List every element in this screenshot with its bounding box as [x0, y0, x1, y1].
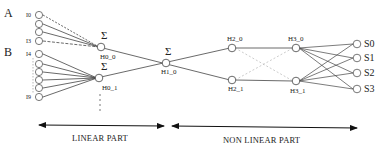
input-i9-label: I9 [26, 94, 31, 100]
sum-icon-h0-0: Σ [101, 30, 107, 41]
network-diagram [0, 0, 387, 153]
group-b-connections [43, 54, 97, 97]
group-b-label: B [4, 46, 12, 58]
output-s1-label: S1 [364, 53, 375, 63]
input-i0-label: I0 [26, 12, 31, 18]
h3-to-output-connections [299, 44, 353, 89]
linear-part-label: LINEAR PART [72, 134, 128, 143]
hidden-nodes [95, 43, 300, 85]
group-a-connections [43, 15, 99, 47]
node-h1-0-label: H1_0 [161, 69, 177, 76]
nonlinear-part-arrow [172, 126, 357, 128]
group-a-label: A [4, 7, 13, 19]
sum-icon-h1-0: Σ [165, 46, 171, 57]
output-s2-label: S2 [364, 68, 375, 78]
sum-icon-h0-1: Σ [101, 61, 107, 72]
node-h2-0-label: H2_0 [227, 36, 243, 43]
input-i3-label: I3 [26, 38, 31, 44]
output-s0-label: S0 [364, 39, 375, 49]
node-h0-0-label: H0_0 [100, 54, 116, 61]
input-nodes [35, 11, 42, 100]
linear-part-arrow [39, 125, 164, 126]
nonlinear-part-label: NON LINEAR PART [223, 136, 300, 145]
node-h3-1-label: H3_1 [290, 88, 306, 95]
output-s3-label: S3 [364, 84, 375, 94]
node-h3-0-label: H3_0 [288, 36, 304, 43]
input-i4-label: I4 [26, 51, 31, 57]
output-nodes [353, 40, 361, 93]
node-h0-1-label: H0_1 [102, 85, 118, 92]
node-h2-1-label: H2_1 [228, 86, 244, 93]
